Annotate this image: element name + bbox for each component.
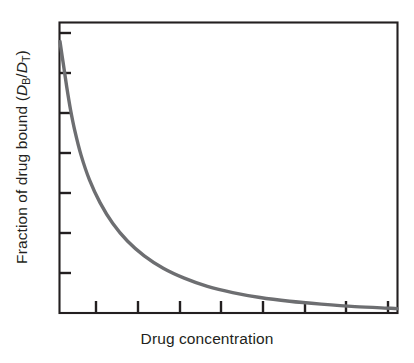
y-axis-denominator-var: D: [13, 62, 30, 73]
y-axis-numerator-var: D: [13, 85, 30, 96]
drug-bound-curve: [60, 42, 397, 309]
y-axis-title-wrapper: Fraction of drug bound (DB/DT): [0, 0, 44, 314]
axes-frame: [60, 23, 398, 314]
y-axis-numerator-sub: B: [20, 78, 32, 85]
figure-container: Fraction of drug bound (DB/DT) Drug conc…: [0, 0, 414, 363]
y-axis-title: Fraction of drug bound (DB/DT): [13, 50, 31, 264]
y-axis-title-suffix: ): [13, 50, 30, 55]
plot-area: [0, 0, 414, 363]
x-axis-title: Drug concentration: [0, 330, 414, 348]
y-axis-title-prefix: Fraction of drug bound (: [13, 96, 30, 264]
y-axis-denominator-sub: T: [20, 55, 32, 62]
